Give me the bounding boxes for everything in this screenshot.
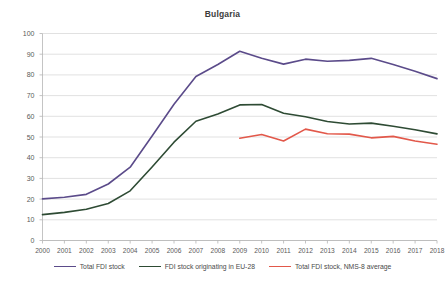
series-line-1 [43, 51, 438, 199]
x-tick-label: 2010 [251, 247, 273, 254]
y-tick-label: 30 [13, 175, 35, 182]
x-tick-label: 2016 [382, 247, 404, 254]
legend-item-2[interactable]: FDI stock originating in EU-28 [139, 263, 255, 270]
y-tick-label: 20 [13, 196, 35, 203]
chart-container: Bulgaria 1009080706050403020100 20002001… [0, 0, 445, 290]
legend-swatch-line-icon [269, 266, 291, 267]
y-tick-label: 40 [13, 154, 35, 161]
series-line-2 [43, 105, 438, 215]
y-tick-label: 70 [13, 92, 35, 99]
x-tick-label: 2005 [141, 247, 163, 254]
y-tick-label: 100 [13, 30, 35, 37]
x-tick-label: 2018 [426, 247, 445, 254]
y-tick-label: 60 [13, 113, 35, 120]
plot-area: 1009080706050403020100 20002001200220032… [0, 0, 445, 290]
x-tick-label: 2007 [185, 247, 207, 254]
legend-swatch-line-icon [139, 266, 161, 267]
legend-item-label: Total FDI stock [80, 263, 125, 270]
x-tick-label: 2001 [53, 247, 75, 254]
y-tick-label: 90 [13, 51, 35, 58]
legend-item-3[interactable]: Total FDI stock, NMS-8 average [269, 263, 391, 270]
chart-legend: Total FDI stockFDI stock originating in … [0, 263, 445, 270]
y-tick-label: 10 [13, 216, 35, 223]
x-tick-label: 2012 [295, 247, 317, 254]
x-tick-label: 2011 [273, 247, 295, 254]
y-tick-label: 0 [13, 237, 35, 244]
x-tick-label: 2009 [229, 247, 251, 254]
x-tick-label: 2013 [316, 247, 338, 254]
series-lines [43, 51, 438, 214]
x-tick-label: 2015 [360, 247, 382, 254]
x-tick-label: 2017 [404, 247, 426, 254]
x-tick-label: 2014 [338, 247, 360, 254]
x-tick-label: 2008 [207, 247, 229, 254]
x-tick-marks [43, 241, 438, 244]
x-tick-label: 2003 [97, 247, 119, 254]
legend-item-label: Total FDI stock, NMS-8 average [295, 263, 391, 270]
x-tick-label: 2002 [75, 247, 97, 254]
legend-swatch-line-icon [54, 266, 76, 267]
x-tick-label: 2006 [163, 247, 185, 254]
legend-item-label: FDI stock originating in EU-28 [165, 263, 255, 270]
y-tick-label: 80 [13, 71, 35, 78]
x-tick-label: 2000 [32, 247, 54, 254]
x-tick-label: 2004 [119, 247, 141, 254]
y-tick-label: 50 [13, 134, 35, 141]
legend-item-1[interactable]: Total FDI stock [54, 263, 125, 270]
